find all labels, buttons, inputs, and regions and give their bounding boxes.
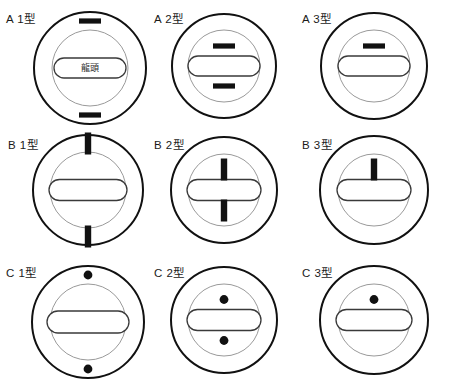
center-slot <box>49 180 127 201</box>
marker-horizontal-bar <box>213 83 235 88</box>
center-slot <box>338 56 410 76</box>
marker-vertical-bar <box>221 200 227 222</box>
marker-vertical-bar <box>371 159 377 181</box>
marker-vertical-bar <box>221 159 227 181</box>
center-slot <box>47 311 129 333</box>
center-slot <box>187 310 261 331</box>
diagram-sheet: A 1型龍頭A 2型A 3型B 1型B 2型B 3型C 1型C 2型C 3型 <box>0 0 455 391</box>
marker-horizontal-bar <box>79 18 101 23</box>
figure-cell-b3: B 3型 <box>296 128 448 258</box>
center-slot <box>337 180 411 201</box>
cap-diagram-c1 <box>0 256 152 386</box>
cap-diagram-a3 <box>296 2 448 132</box>
slot-text: 龍頭 <box>81 62 99 73</box>
center-slot <box>187 180 261 201</box>
figure-cell-a1: A 1型龍頭 <box>0 2 152 132</box>
cap-diagram-c3 <box>296 256 448 386</box>
marker-vertical-bar <box>85 226 91 248</box>
cap-diagram-b1 <box>2 128 154 258</box>
cap-diagram-a2 <box>148 2 300 132</box>
marker-dot <box>220 295 229 304</box>
marker-dot <box>220 336 229 345</box>
figure-cell-c1: C 1型 <box>0 256 152 386</box>
cap-diagram-c2 <box>148 256 300 386</box>
marker-dot <box>370 295 379 304</box>
cap-diagram-b3 <box>296 128 448 258</box>
cap-diagram-b2 <box>148 128 300 258</box>
marker-dot <box>84 271 93 280</box>
cap-diagram-a1: 龍頭 <box>0 2 152 132</box>
figure-cell-c3: C 3型 <box>296 256 448 386</box>
center-slot <box>336 310 412 331</box>
figure-cell-a2: A 2型 <box>148 2 300 132</box>
marker-dot <box>84 365 93 374</box>
figure-cell-b1: B 1型 <box>2 128 154 258</box>
center-slot <box>188 56 260 76</box>
marker-horizontal-bar <box>363 43 385 48</box>
marker-horizontal-bar <box>79 112 101 117</box>
figure-cell-b2: B 2型 <box>148 128 300 258</box>
figure-cell-a3: A 3型 <box>296 2 448 132</box>
marker-horizontal-bar <box>213 43 235 48</box>
figure-cell-c2: C 2型 <box>148 256 300 386</box>
marker-vertical-bar <box>85 133 91 155</box>
